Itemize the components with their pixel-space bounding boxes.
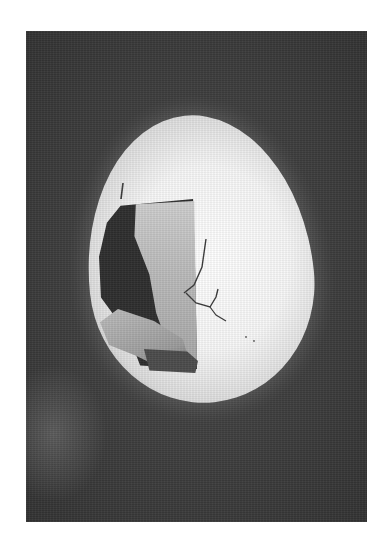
image-description: Black-and-white photograph of a large cr… xyxy=(26,31,27,32)
photograph: Black-and-white photograph of a large cr… xyxy=(26,31,367,522)
